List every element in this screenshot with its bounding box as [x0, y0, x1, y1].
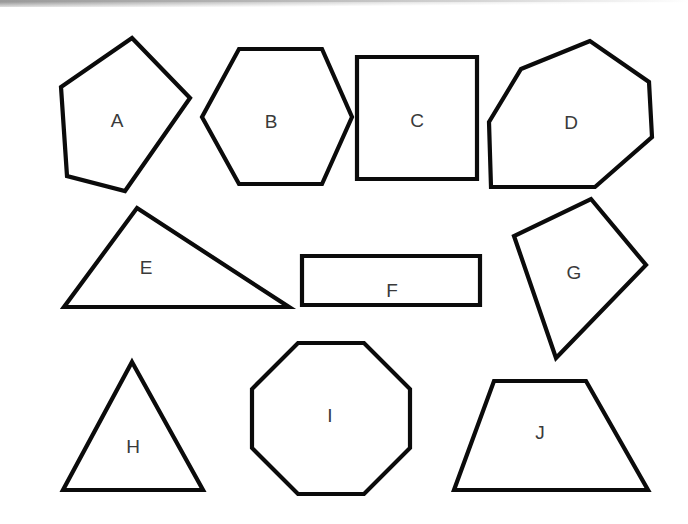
shape-a-pentagon[interactable] [61, 38, 190, 191]
shape-f-label: F [386, 280, 398, 301]
shape-group-c[interactable]: C [357, 57, 477, 179]
shape-group-b[interactable]: B [202, 49, 352, 184]
worksheet-page: A B C D E F G H [0, 0, 688, 524]
shape-e-label: E [140, 257, 153, 278]
shape-h-label: H [126, 436, 140, 457]
shape-j-trapezoid[interactable] [454, 381, 648, 490]
shape-group-j[interactable]: J [454, 381, 648, 490]
shape-group-i[interactable]: I [252, 343, 410, 494]
shape-e-triangle[interactable] [64, 208, 289, 307]
shape-group-e[interactable]: E [64, 208, 289, 307]
shape-j-label: J [535, 422, 545, 443]
shape-d-label: D [564, 112, 578, 133]
shape-group-g[interactable]: G [514, 199, 646, 358]
shape-group-a[interactable]: A [61, 38, 190, 191]
shape-i-label: I [327, 405, 332, 426]
shape-b-label: B [265, 111, 278, 132]
shape-canvas: A B C D E F G H [0, 0, 688, 524]
shape-group-d[interactable]: D [489, 41, 652, 187]
shape-group-h[interactable]: H [63, 362, 203, 490]
shape-h-triangle[interactable] [63, 362, 203, 490]
shape-c-label: C [410, 110, 424, 131]
shape-group-f[interactable]: F [302, 256, 480, 305]
shape-g-label: G [567, 262, 582, 283]
shape-a-label: A [111, 110, 124, 131]
